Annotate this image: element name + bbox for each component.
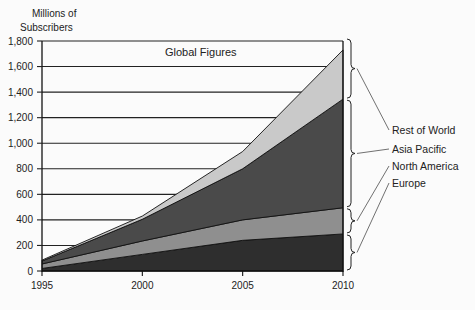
legend-label-north-america: North America [392, 160, 459, 172]
leader-line [357, 149, 389, 153]
y-tick-label: 400 [16, 214, 33, 225]
area-series [42, 50, 343, 271]
y-axis-title-line1: Millions of [32, 8, 77, 19]
y-tick-label: 600 [16, 189, 33, 200]
x-tick-label: 2010 [332, 280, 355, 291]
x-axis-ticks: 1995200020052010 [31, 271, 355, 291]
y-axis-ticks: 02004006008001,0001,2001,4001,6001,800 [8, 36, 42, 277]
y-tick-label: 1,000 [8, 138, 33, 149]
brace [347, 235, 355, 270]
leader-line [357, 69, 389, 130]
y-tick-label: 1,400 [8, 87, 33, 98]
x-tick-label: 2000 [131, 280, 154, 291]
brace [347, 39, 355, 98]
brace [347, 100, 355, 207]
y-axis-title-line2: Subscribers [20, 22, 73, 33]
legend-label-asia-pacific: Asia Pacific [392, 143, 446, 155]
y-tick-label: 1,800 [8, 36, 33, 47]
legend: Rest of WorldAsia PacificNorth AmericaEu… [357, 69, 459, 253]
y-tick-label: 1,600 [8, 61, 33, 72]
y-tick-label: 1,200 [8, 112, 33, 123]
legend-label-europe: Europe [392, 177, 426, 189]
legend-brackets [347, 39, 355, 270]
x-tick-label: 2005 [232, 280, 255, 291]
y-tick-label: 0 [27, 266, 33, 277]
y-tick-label: 200 [16, 240, 33, 251]
chart-title: Global Figures [165, 46, 237, 58]
legend-label-rest-of-world: Rest of World [392, 124, 456, 136]
stacked-area-chart: Millions of Subscribers 02004006008001,0… [0, 0, 475, 310]
y-tick-label: 800 [16, 163, 33, 174]
brace [347, 209, 355, 233]
x-tick-label: 1995 [31, 280, 54, 291]
